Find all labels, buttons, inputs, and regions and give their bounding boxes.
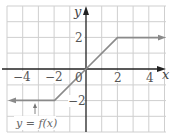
annotation-arrow-icon <box>33 103 37 108</box>
y-tick-neg2: −2 <box>68 94 86 108</box>
y-axis-label: y <box>73 4 82 19</box>
function-label: y = f(x) <box>15 117 57 130</box>
x-tick-neg2: −2 <box>45 70 63 84</box>
function-graph: y x −4 −2 0 2 4 2 −2 y = f(x) <box>0 0 172 136</box>
function-annotation: y = f(x) <box>14 103 57 130</box>
y-tick-2: 2 <box>75 31 83 45</box>
x-tick-4: 4 <box>146 71 154 85</box>
curve-left-arrow-icon <box>8 98 16 104</box>
x-tick-2: 2 <box>114 71 122 85</box>
y-axis-arrow-icon <box>83 6 89 15</box>
x-tick-0: 0 <box>75 71 83 85</box>
axes <box>2 6 166 132</box>
x-axis-label: x <box>162 67 170 82</box>
x-tick-neg4: −4 <box>13 70 31 84</box>
